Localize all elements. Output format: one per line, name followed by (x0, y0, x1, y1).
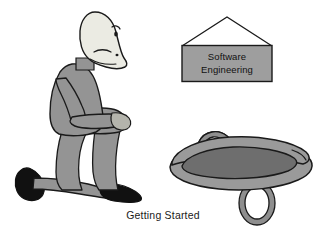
nostril-icon (116, 54, 119, 57)
sign-line-2: Engineering (201, 64, 253, 75)
background (0, 0, 327, 243)
caption-label: Getting Started (126, 209, 200, 221)
eye-icon (114, 31, 118, 36)
sign-line-1: Software (208, 51, 246, 62)
illustration-canvas: Software Engineering (0, 0, 327, 243)
handle-bottom-hole (245, 187, 269, 219)
cartoon-illustration: Software Engineering (0, 0, 327, 243)
